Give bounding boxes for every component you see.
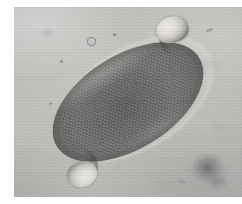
micrograph-image [14,7,242,197]
scan-sheet [0,0,242,204]
halftone-banding [14,7,242,197]
